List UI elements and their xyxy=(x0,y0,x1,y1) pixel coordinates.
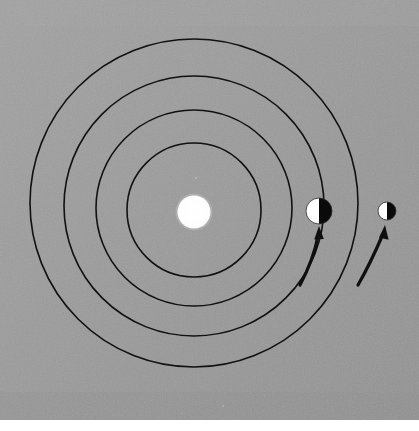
orbit-diagram-canvas xyxy=(0,0,419,431)
sun-halo xyxy=(176,194,213,231)
plate-speck-2 xyxy=(222,405,224,407)
plate-vignette-bottom xyxy=(0,392,419,420)
plate-speck-1 xyxy=(195,177,197,179)
plate-vignette-top xyxy=(0,0,419,26)
orbit-diagram-figure xyxy=(0,0,419,431)
